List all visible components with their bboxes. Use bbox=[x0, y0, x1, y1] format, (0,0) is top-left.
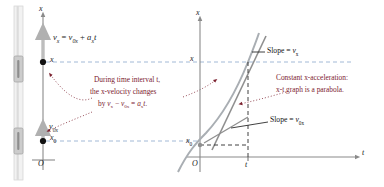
formula-plus: + bbox=[80, 32, 85, 42]
formula-v-sub: x bbox=[57, 38, 60, 44]
formula-v0-sub: 0x bbox=[72, 38, 78, 44]
slope-eq-1: = bbox=[286, 46, 290, 55]
slope-eq-2: = bbox=[289, 115, 293, 124]
slope-word-2: Slope bbox=[270, 115, 287, 124]
slope-v-sub-1: x bbox=[296, 51, 299, 57]
v0x-sub: 0x bbox=[53, 127, 58, 133]
left-position-label-x: x bbox=[50, 56, 54, 64]
ann-vx-sub: x bbox=[111, 104, 114, 109]
annotation-right-line1: Constant x-acceleration: bbox=[276, 74, 348, 81]
right-tick-label-x0: x0 bbox=[186, 137, 192, 147]
particle-dot-final bbox=[40, 59, 46, 65]
annotation-line1: During time interval t, bbox=[94, 76, 160, 83]
slope-word-1: Slope bbox=[267, 46, 284, 55]
x0-sub: 0 bbox=[54, 138, 57, 144]
right-tick-label-x: x bbox=[190, 55, 194, 63]
formula-equals: = bbox=[62, 32, 67, 42]
left-position-label-x0: x0 bbox=[50, 134, 56, 144]
slider-graphic bbox=[14, 6, 23, 180]
graph-point-initial bbox=[198, 143, 202, 147]
right-origin-label: O bbox=[192, 160, 198, 168]
ann-eq: = bbox=[131, 99, 135, 108]
left-origin-label: O bbox=[38, 160, 44, 168]
slope-v-sub-2: 0x bbox=[299, 120, 304, 126]
annotation-line2: the x-velocity changes bbox=[90, 88, 157, 95]
slope-label-initial: Slope = v0x bbox=[270, 116, 304, 126]
ann-v0x-sub: 0x bbox=[124, 104, 129, 109]
velocity-formula-final: vx = v0x + axt bbox=[53, 33, 96, 45]
right-tick-label-t: t bbox=[245, 161, 247, 169]
left-axis-label-x: x bbox=[39, 5, 43, 13]
annotation-right-line2: x-t graph is a parabola. bbox=[276, 86, 344, 93]
right-axis-label-x: x bbox=[196, 9, 200, 17]
slope-label-final: Slope = vx bbox=[267, 47, 298, 57]
ann-by: by bbox=[98, 99, 105, 108]
ann-t: t. bbox=[143, 99, 147, 108]
velocity-label-initial: v0x bbox=[49, 123, 58, 133]
leader-left bbox=[50, 74, 92, 100]
particle-dot-initial bbox=[40, 138, 46, 144]
right-axis-label-t: t bbox=[362, 149, 364, 157]
slope-leader-initial bbox=[231, 122, 268, 128]
physics-figure: x x x0 O vx = v0x + axt v0x During time … bbox=[0, 0, 384, 187]
rx0-sub: 0 bbox=[190, 141, 193, 147]
ann-minus: − bbox=[115, 99, 119, 108]
annotation-line3: by vx − v0x = axt. bbox=[98, 100, 147, 110]
formula-t: t bbox=[94, 32, 96, 42]
